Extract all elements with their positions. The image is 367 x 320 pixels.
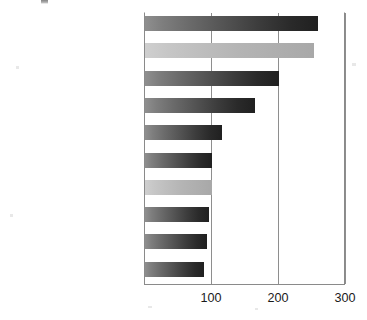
bar-fill <box>145 262 204 277</box>
bar-fill <box>145 153 212 168</box>
bar-outpatient-health-care <box>145 180 212 195</box>
bar-fill <box>145 98 255 113</box>
bar-row <box>145 259 344 286</box>
bar-other <box>145 98 255 113</box>
bar-row <box>145 204 344 231</box>
bar-public-assembly <box>145 207 209 222</box>
tick-label-100: 100 <box>200 291 221 305</box>
bar-row <box>145 13 344 40</box>
bar-row <box>145 150 344 177</box>
bar-fill <box>145 16 318 31</box>
bar-row <box>145 95 344 122</box>
bar-fill <box>145 43 314 58</box>
horizontal-bar-chart: Food ServiceInpatient Health CareFood Sa… <box>0 0 367 320</box>
bar-food-sales <box>145 71 279 86</box>
tick-label-300: 300 <box>334 291 355 305</box>
bar-row <box>145 40 344 67</box>
bar-public-order-and-safety <box>145 125 222 140</box>
bar-food-service <box>145 16 318 31</box>
scan-speckle <box>352 63 356 66</box>
bar-fill <box>145 71 279 86</box>
bar-row <box>145 68 344 95</box>
bar-row <box>145 231 344 258</box>
bar-row <box>145 177 344 204</box>
bar-inpatient-health-care <box>145 43 314 58</box>
bar-row <box>145 122 344 149</box>
scan-speckle <box>255 308 258 310</box>
scan-speckle <box>148 306 152 308</box>
bar-fill <box>145 207 209 222</box>
scan-speckle <box>10 214 13 217</box>
bar-fill <box>145 234 207 249</box>
bar-lodging <box>145 153 212 168</box>
bar-fill <box>145 125 222 140</box>
scan-speckle <box>16 66 19 69</box>
bar-education <box>145 262 204 277</box>
gridline-300 <box>345 13 346 284</box>
bar-fill <box>145 180 212 195</box>
tick-label-200: 200 <box>267 291 288 305</box>
bar-office <box>145 234 207 249</box>
plot-area <box>144 12 345 285</box>
